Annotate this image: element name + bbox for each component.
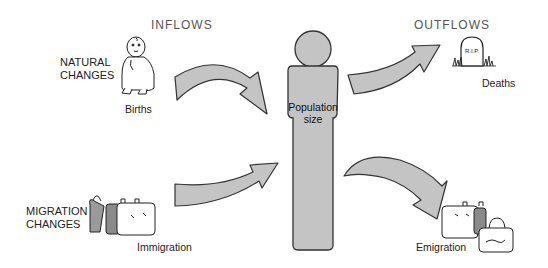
- arrow-deaths-outflow: [348, 45, 440, 94]
- immigration-luggage-icon: [90, 196, 155, 235]
- natural-changes-label: NATURAL CHANGES: [60, 56, 114, 81]
- natural-changes-line1: NATURAL: [60, 56, 114, 69]
- tombstone-text: R.I.P.: [465, 48, 480, 54]
- population-size-label: Population size: [285, 101, 341, 125]
- arrow-immigration-inflow: [175, 163, 278, 206]
- inflows-header: INFLOWS: [151, 19, 213, 33]
- outflows-header: OUTFLOWS: [414, 19, 490, 33]
- migration-changes-line1: MIGRATION: [26, 205, 88, 218]
- deaths-label: Deaths: [482, 77, 515, 89]
- arrow-births-inflow: [175, 65, 267, 114]
- population-figure: [288, 31, 338, 250]
- tombstone-icon: R.I.P.: [452, 37, 496, 66]
- population-size-line1: Population: [285, 101, 341, 113]
- figure-body: [288, 66, 338, 250]
- births-label: Births: [125, 103, 152, 115]
- natural-changes-line2: CHANGES: [60, 69, 114, 82]
- baby-icon: [122, 37, 154, 94]
- immigration-label: Immigration: [137, 241, 192, 253]
- emigration-label: Emigration: [416, 241, 466, 253]
- figure-head: [295, 31, 331, 67]
- arrow-emigration-outflow: [344, 157, 447, 219]
- migration-changes-line2: CHANGES: [26, 218, 88, 231]
- migration-changes-label: MIGRATION CHANGES: [26, 205, 88, 230]
- population-flow-diagram: R.I.P. INFLOWS OUTFLOWS NATURAL: [0, 0, 548, 268]
- population-size-line2: size: [285, 113, 341, 125]
